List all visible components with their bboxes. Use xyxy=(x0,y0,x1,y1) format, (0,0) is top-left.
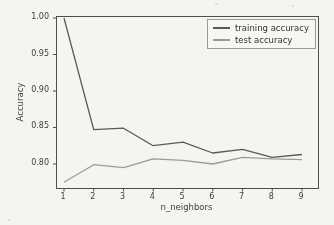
x-tick-label: 7 xyxy=(233,192,249,202)
x-tick-label: 3 xyxy=(114,192,130,202)
y-tick-label: 1.00 xyxy=(0,12,49,22)
scan-speck xyxy=(215,3,218,5)
x-tick-label: 1 xyxy=(55,192,71,202)
training-line-swatch xyxy=(213,27,230,28)
test-line-swatch xyxy=(213,39,230,40)
x-tick-label: 9 xyxy=(293,192,309,202)
legend-label-training: training accuracy xyxy=(235,23,309,33)
x-tick-label: 5 xyxy=(174,192,190,202)
x-tick-label: 6 xyxy=(204,192,220,202)
x-axis-title: n_neighbors xyxy=(56,202,317,212)
legend-item-test: test accuracy xyxy=(213,35,309,45)
legend-label-test: test accuracy xyxy=(235,35,292,45)
plot-area: training accuracy test accuracy xyxy=(56,16,319,189)
scan-speck xyxy=(292,5,294,7)
legend-item-training: training accuracy xyxy=(213,23,309,33)
scan-speck xyxy=(8,219,11,221)
y-tick-label: 0.85 xyxy=(0,121,49,131)
y-tick-label: 0.80 xyxy=(0,158,49,168)
x-tick-label: 2 xyxy=(85,192,101,202)
x-tick-label: 4 xyxy=(144,192,160,202)
line-test-accuracy xyxy=(64,157,302,182)
legend: training accuracy test accuracy xyxy=(207,19,316,49)
y-tick-label: 0.90 xyxy=(0,85,49,95)
y-tick-label: 0.95 xyxy=(0,49,49,59)
x-tick-label: 8 xyxy=(263,192,279,202)
figure: Accuracy training accuracy test accuracy… xyxy=(0,0,334,225)
